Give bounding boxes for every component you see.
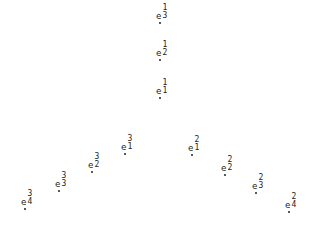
node-indices: 12 [162,41,167,57]
node-label: e34 [21,194,32,210]
node-label: e31 [121,139,132,155]
node-base: e [188,144,193,153]
node-label: e22 [221,160,232,176]
node-base: e [221,164,226,173]
node-label: e11 [156,83,167,99]
point-marker [159,97,161,99]
point-marker [288,211,290,213]
node-base: e [156,12,161,21]
node-indices: 13 [162,4,167,20]
point-marker [124,153,126,155]
node-subscript: 3 [61,180,66,188]
node-indices: 32 [94,153,99,169]
node-indices: 34 [27,190,32,206]
node-subscript: 2 [162,49,167,57]
point-marker [255,192,257,194]
node-indices: 31 [127,135,132,151]
point-marker [91,171,93,173]
node-base: e [55,180,60,189]
node-subscript: 1 [162,87,167,95]
node-base: e [252,182,257,191]
node-base: e [156,87,161,96]
node-base: e [156,49,161,58]
point-marker [191,154,193,156]
point-marker [58,190,60,192]
node-indices: 21 [194,136,199,152]
node-base: e [121,143,126,152]
node-base: e [21,198,26,207]
node-label: e13 [156,8,167,24]
node-indices: 24 [291,193,296,209]
point-marker [159,59,161,61]
node-label: e32 [88,157,99,173]
node-base: e [285,201,290,210]
node-label: e12 [156,45,167,61]
node-subscript: 3 [258,182,263,190]
node-label: e21 [188,140,199,156]
node-subscript: 3 [162,12,167,20]
point-marker [159,22,161,24]
point-marker [24,208,26,210]
node-subscript: 2 [94,161,99,169]
node-subscript: 1 [194,144,199,152]
node-indices: 22 [227,156,232,172]
node-subscript: 1 [127,143,132,151]
node-base: e [88,161,93,170]
node-label: e23 [252,178,263,194]
node-indices: 23 [258,174,263,190]
point-marker [224,174,226,176]
node-label: e24 [285,197,296,213]
node-label: e33 [55,176,66,192]
node-subscript: 4 [27,198,32,206]
node-subscript: 2 [227,164,232,172]
node-subscript: 4 [291,201,296,209]
node-indices: 11 [162,79,167,95]
node-indices: 33 [61,172,66,188]
